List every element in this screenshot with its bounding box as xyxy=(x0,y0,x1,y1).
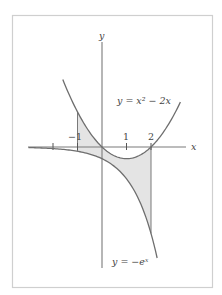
tick-label-2: 2 xyxy=(148,131,154,142)
y-axis-label: y xyxy=(98,30,105,41)
x-axis-label: x xyxy=(191,141,197,152)
exponential-equation-label: y = −eˣ xyxy=(111,256,149,267)
area-between-curves-figure: y x −1 1 2 y = x² − 2x y = −eˣ xyxy=(0,0,222,295)
tick-label-minus-1: −1 xyxy=(68,131,82,142)
parabola-equation-label: y = x² − 2x xyxy=(116,95,172,106)
figure-frame xyxy=(13,16,213,288)
tick-label-1: 1 xyxy=(123,131,129,142)
